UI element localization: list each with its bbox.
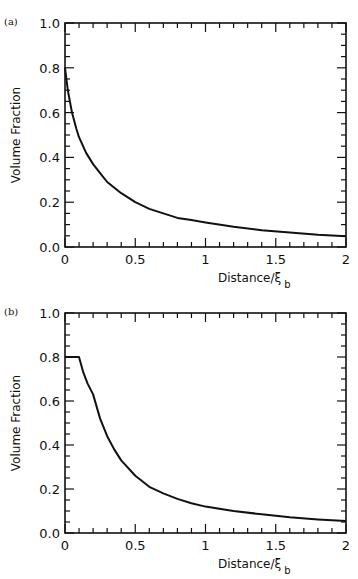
x-tick-label: 0: [61, 252, 69, 267]
x-tick-label: 2: [342, 538, 350, 553]
x-axis-title-main: Distance/ξ: [218, 271, 281, 285]
y-tick-label: 0.4: [39, 438, 60, 453]
y-tick-label: 1.0: [39, 306, 60, 321]
y-tick-label: 0.2: [39, 195, 60, 210]
y-tick-label: 0.6: [39, 394, 60, 409]
y-axis-title: Volume Fraction: [9, 375, 23, 471]
x-tick-label: 1.5: [265, 538, 286, 553]
chart-panel-b: 00.511.520.00.20.40.60.81.0(b)Volume Fra…: [4, 306, 350, 576]
x-axis-title: Distance/ξb: [218, 557, 291, 576]
x-tick-label: 0.5: [125, 252, 146, 267]
y-tick-label: 1.0: [39, 16, 60, 31]
panel-label: (a): [4, 16, 18, 27]
y-tick-label: 0.8: [39, 350, 60, 365]
plot-frame: [65, 23, 346, 247]
x-axis-title-main: Distance/ξ: [218, 557, 281, 571]
y-tick-label: 0.6: [39, 106, 60, 121]
chart-figure: 00.511.520.00.20.40.60.81.0(a)Volume Fra…: [0, 0, 358, 579]
x-tick-label: 1: [201, 538, 209, 553]
x-tick-label: 1.5: [265, 252, 286, 267]
data-line: [65, 68, 346, 236]
panel-label: (b): [4, 306, 18, 317]
y-tick-label: 0.2: [39, 482, 60, 497]
plot-frame: [65, 313, 346, 533]
y-tick-label: 0.0: [39, 526, 60, 541]
x-tick-label: 1: [201, 252, 209, 267]
y-tick-label: 0.0: [39, 240, 60, 255]
x-tick-label: 0: [61, 538, 69, 553]
y-tick-label: 0.4: [39, 150, 60, 165]
chart-panel-a: 00.511.520.00.20.40.60.81.0(a)Volume Fra…: [4, 16, 350, 290]
x-axis-title-subscript: b: [284, 279, 290, 290]
y-axis-title: Volume Fraction: [9, 87, 23, 183]
x-tick-label: 0.5: [125, 538, 146, 553]
y-tick-label: 0.8: [39, 61, 60, 76]
data-line: [65, 357, 346, 521]
x-axis-title: Distance/ξb: [218, 271, 291, 290]
x-tick-label: 2: [342, 252, 350, 267]
x-axis-title-subscript: b: [284, 565, 290, 576]
